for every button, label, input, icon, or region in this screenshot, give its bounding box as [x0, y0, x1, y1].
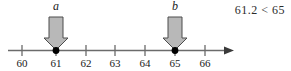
marker-label-b: b — [167, 0, 183, 13]
tick-label-65: 65 — [163, 57, 187, 69]
tick-label-64: 64 — [133, 57, 157, 69]
down-arrow-b-icon — [163, 17, 187, 50]
inequality-annotation: 61.2 < 65 — [235, 3, 285, 18]
down-arrow-a-icon — [44, 17, 68, 50]
tick-label-60: 60 — [10, 57, 34, 69]
tick-label-66: 66 — [193, 57, 217, 69]
tick-label-61: 61 — [44, 57, 68, 69]
point-dot-a — [53, 47, 60, 54]
tick-label-62: 62 — [74, 57, 98, 69]
number-line-figure: a b 60 61 62 63 64 65 66 61.2 < 65 — [0, 0, 291, 71]
axis-arrowhead-icon — [224, 47, 234, 55]
tick-label-63: 63 — [103, 57, 127, 69]
point-dot-b — [172, 47, 179, 54]
marker-label-a: a — [48, 0, 64, 13]
